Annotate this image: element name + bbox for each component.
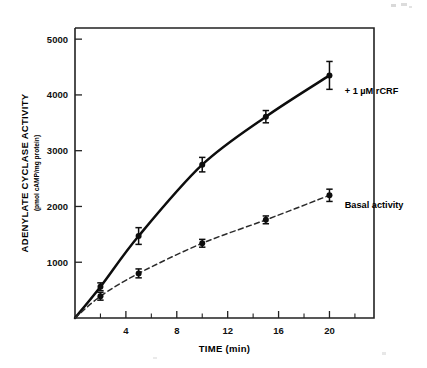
- data-point-marker: [136, 270, 142, 276]
- data-series-layer: [75, 61, 333, 318]
- data-point-marker: [326, 192, 332, 198]
- y-axis-ticks: [75, 39, 82, 262]
- series-curve: [75, 75, 329, 318]
- basal-series-label: Basal activity: [345, 200, 405, 210]
- y-axis-tick-labels: 10002000300040005000: [47, 34, 68, 268]
- x-tick-label: 16: [273, 325, 284, 336]
- figure-container: 10002000300040005000 48121620 + 1 µM rCR…: [0, 0, 427, 368]
- x-axis-title: TIME (min): [199, 343, 251, 354]
- data-point-marker: [136, 233, 142, 239]
- y-axis-title: ADENYLATE CYCLASE ACTIVITY: [19, 93, 30, 252]
- y-tick-label: 1000: [47, 257, 68, 268]
- data-point-marker: [263, 114, 269, 120]
- rcrf-series-label: + 1 µM rCRF: [345, 86, 399, 96]
- x-tick-label: 8: [174, 325, 179, 336]
- y-tick-label: 3000: [47, 145, 68, 156]
- x-axis-ticks: [126, 311, 330, 318]
- x-tick-label: 20: [324, 325, 335, 336]
- series-curve: [75, 195, 329, 318]
- y-tick-label: 5000: [47, 34, 68, 45]
- series-rcrf: [75, 61, 333, 318]
- series-basal: [75, 189, 333, 318]
- data-point-marker: [263, 217, 269, 223]
- data-point-marker: [199, 240, 205, 246]
- data-point-marker: [97, 293, 103, 299]
- x-axis-tick-labels: 48121620: [123, 325, 335, 336]
- data-point-marker: [326, 72, 332, 78]
- scan-artifacts: [153, 3, 412, 359]
- y-tick-label: 4000: [47, 89, 68, 100]
- x-tick-label: 4: [123, 325, 129, 336]
- x-tick-label: 12: [222, 325, 233, 336]
- y-axis-subtitle: (pmol cAMP/mg protein): [33, 135, 41, 211]
- y-tick-label: 2000: [47, 201, 68, 212]
- data-point-marker: [97, 284, 103, 290]
- data-point-marker: [199, 162, 205, 168]
- adenylate-cyclase-activity-chart: 10002000300040005000 48121620 + 1 µM rCR…: [0, 0, 427, 368]
